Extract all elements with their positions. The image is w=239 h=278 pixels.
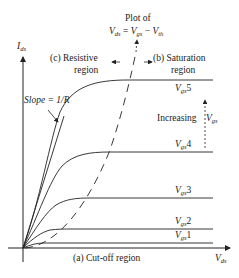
curve-label-vgs5: Vgs5 xyxy=(175,84,191,95)
plot-of-arrow xyxy=(136,40,137,52)
curve-label-vgs1: Vgs1 xyxy=(175,231,191,242)
mosfet-iv-diagram: Ids Vds Plot of Vds = Vgs − Vth (c) Resi… xyxy=(0,0,239,278)
increasing-vgs-label: Vgs xyxy=(206,114,218,125)
resistive-region-label: (c) Resistive xyxy=(50,54,98,64)
saturation-region-label-2: region xyxy=(171,66,195,76)
plot-of-label: Plot of xyxy=(125,14,151,24)
curve-label-vgs4: Vgs4 xyxy=(175,140,191,151)
x-axis-label: Vds xyxy=(215,254,227,265)
slope-line xyxy=(23,116,64,248)
curve-label-vgs2: Vgs2 xyxy=(175,217,191,228)
cutoff-region-label: (a) Cut-off region xyxy=(73,254,140,264)
slope-pointer xyxy=(48,110,58,122)
y-axis-label: Ids xyxy=(17,42,26,53)
curve-vgs1 xyxy=(23,243,213,248)
plot-of-equation: Vds = Vgs − Vth xyxy=(109,27,163,38)
curve-label-vgs3: Vgs3 xyxy=(175,186,191,197)
slope-label: Slope = 1/R xyxy=(24,96,69,106)
resistive-region-label-2: region xyxy=(74,66,98,76)
vds-eq-vgs-minus-vth-curve xyxy=(25,52,136,248)
diagram-graphics xyxy=(0,0,239,278)
increasing-label: Increasing xyxy=(157,114,197,124)
saturation-region-label: (b) Saturation xyxy=(153,54,206,64)
